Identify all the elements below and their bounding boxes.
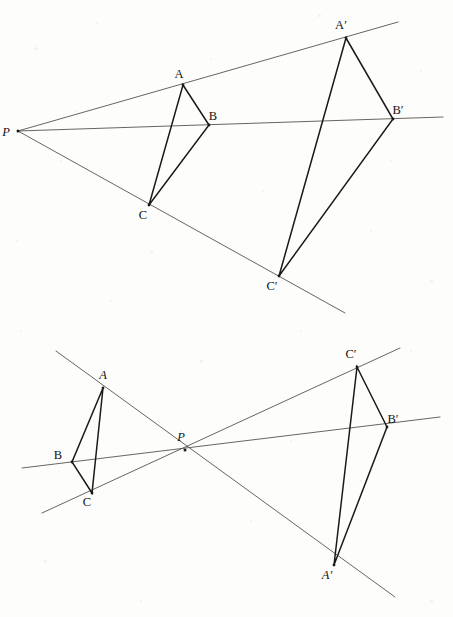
geometry-canvas: PABCA′B′C′ PABCA′B′C′: [0, 0, 453, 617]
vertex-dot: [356, 366, 359, 369]
triangle-ABC: [72, 388, 103, 493]
label-center-top: P: [1, 125, 10, 139]
label-vertex: C′: [345, 347, 356, 361]
label-vertex: C: [139, 208, 147, 222]
center-point-bottom: [184, 449, 187, 452]
label-vertex: B: [209, 109, 217, 123]
vertex-dot: [392, 118, 395, 121]
diagram-bottom: PABCA′B′C′: [22, 347, 440, 597]
label-vertex: A′: [335, 18, 347, 32]
ray-C-P-Cprime: [42, 348, 400, 513]
vertex-dot: [148, 204, 151, 207]
label-vertex: A: [98, 368, 107, 382]
vertex-dot: [333, 564, 336, 567]
diagram-top: PABCA′B′C′: [1, 18, 443, 313]
ray-P-C-Cprime: [18, 131, 345, 313]
vertex-dot: [71, 461, 74, 464]
label-vertex: C′: [266, 279, 277, 293]
ray-P-B-Bprime: [18, 117, 443, 131]
vertex-dot: [345, 37, 348, 40]
label-vertex: B′: [392, 103, 403, 117]
label-center-bottom: P: [176, 430, 185, 444]
label-vertex: A: [174, 67, 183, 81]
label-vertex: A′: [321, 568, 333, 582]
triangle-ABC: [149, 85, 209, 205]
figure-root: PABCA′B′C′ PABCA′B′C′: [0, 0, 453, 617]
center-point-top: [17, 130, 20, 133]
label-vertex: B: [54, 448, 62, 462]
vertex-dot: [91, 492, 94, 495]
vertex-dot: [278, 275, 281, 278]
vertex-dot: [102, 387, 105, 390]
triangle-ABC-prime: [334, 367, 387, 565]
vertex-dot: [182, 84, 185, 87]
vertex-dot: [208, 124, 211, 127]
vertex-dot: [386, 426, 389, 429]
label-vertex: B′: [387, 412, 398, 426]
ray-B-P-Bprime: [22, 417, 440, 468]
label-vertex: C: [83, 495, 91, 509]
triangle-ABC-prime: [279, 38, 393, 276]
